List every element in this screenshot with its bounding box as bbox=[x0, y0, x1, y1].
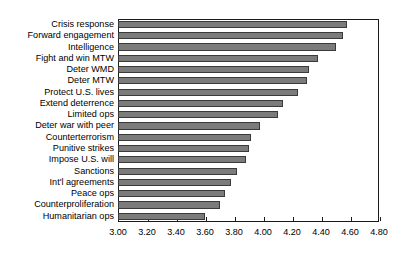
bar bbox=[118, 168, 237, 175]
bar bbox=[118, 66, 309, 73]
x-tick-label: 3.00 bbox=[109, 227, 127, 237]
bar-row bbox=[118, 109, 379, 120]
category-label: Forward engagement bbox=[28, 30, 114, 41]
x-tick-label: 4.00 bbox=[254, 227, 272, 237]
bar bbox=[118, 89, 298, 96]
bar-row bbox=[118, 211, 379, 222]
x-tick-label: 4.60 bbox=[341, 227, 359, 237]
bar-row bbox=[118, 132, 379, 143]
bar bbox=[118, 145, 249, 152]
bar-row bbox=[118, 30, 379, 41]
value-axis: 3.003.203.403.603.804.004.204.404.604.80 bbox=[118, 222, 379, 252]
bar-row bbox=[118, 177, 379, 188]
bar bbox=[118, 201, 220, 208]
bar bbox=[118, 77, 307, 84]
category-label: Fight and win MTW bbox=[36, 53, 114, 64]
category-label: Deter war with peer bbox=[35, 120, 114, 131]
category-label: Crisis response bbox=[51, 19, 114, 30]
bar-row bbox=[118, 64, 379, 75]
bar bbox=[118, 21, 347, 28]
bar-row bbox=[118, 19, 379, 30]
bar bbox=[118, 55, 318, 62]
bar bbox=[118, 32, 343, 39]
bar bbox=[118, 190, 225, 197]
category-axis-labels: Crisis responseForward engagementIntelli… bbox=[0, 19, 114, 222]
bar-row bbox=[118, 75, 379, 86]
x-tick-label: 3.40 bbox=[167, 227, 185, 237]
bar-row bbox=[118, 42, 379, 53]
category-label: Sanctions bbox=[74, 166, 114, 177]
category-label: Humanitarian ops bbox=[43, 211, 114, 222]
category-label: Intelligence bbox=[68, 42, 114, 53]
bar bbox=[118, 179, 231, 186]
x-tick-label: 4.80 bbox=[370, 227, 388, 237]
bar-row bbox=[118, 87, 379, 98]
bar bbox=[118, 111, 278, 118]
category-label: Impose U.S. will bbox=[49, 154, 114, 165]
x-tick-label: 4.40 bbox=[312, 227, 330, 237]
bar-row bbox=[118, 199, 379, 210]
bar-row bbox=[118, 98, 379, 109]
category-label: Limited ops bbox=[67, 109, 114, 120]
bar bbox=[118, 43, 336, 50]
bar bbox=[118, 213, 205, 220]
category-label: Protect U.S. lives bbox=[44, 87, 114, 98]
x-tick-label: 3.80 bbox=[225, 227, 243, 237]
bar bbox=[118, 156, 246, 163]
bar-row bbox=[118, 154, 379, 165]
bar-row bbox=[118, 120, 379, 131]
bar bbox=[118, 134, 251, 141]
bar bbox=[118, 100, 283, 107]
x-tick-mark bbox=[380, 217, 381, 221]
x-tick-label: 3.20 bbox=[138, 227, 156, 237]
category-label: Peace ops bbox=[71, 188, 114, 199]
x-tick-label: 3.60 bbox=[196, 227, 214, 237]
bar-chart: Crisis responseForward engagementIntelli… bbox=[0, 0, 404, 259]
bar-row bbox=[118, 188, 379, 199]
bar-row bbox=[118, 166, 379, 177]
category-label: Counterterrorism bbox=[46, 132, 114, 143]
bar-row bbox=[118, 53, 379, 64]
bar-series bbox=[118, 19, 379, 222]
bar bbox=[118, 122, 260, 129]
category-label: Int'l agreements bbox=[50, 177, 114, 188]
x-tick-label: 4.20 bbox=[283, 227, 301, 237]
bar-row bbox=[118, 143, 379, 154]
category-label: Punitive strikes bbox=[53, 143, 114, 154]
category-label: Extend deterrence bbox=[40, 98, 114, 109]
category-label: Counterproliferation bbox=[34, 199, 114, 210]
category-label: Deter WMD bbox=[67, 64, 115, 75]
category-label: Deter MTW bbox=[68, 75, 114, 86]
